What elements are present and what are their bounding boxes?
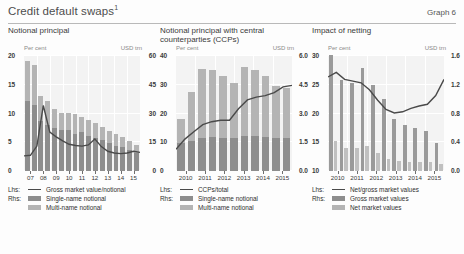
panel-title: Impact of netting [312,26,460,45]
x-axis-tick-label: 2015 [427,174,441,181]
x-axis: 070809101112131415 [24,171,140,182]
panel-legend: Lhs:Gross market value/notionalRhs:Singl… [8,185,156,212]
line-series-gross-market-value-notional [24,55,140,171]
legend-swatch-line [332,189,345,190]
x-axis-tick-label: 12 [91,174,98,181]
x-axis-tick-label: 2010 [179,174,193,181]
x-axis-tick-label: 2015 [275,174,289,181]
legend-axis-key: Lhs: [160,186,180,193]
panel-impact-of-netting: Impact of netting Per cent USD trn 10152… [312,26,460,252]
legend-swatch-light [28,205,41,210]
y-axis-tick-left: 10 [160,139,174,145]
y-axis-tick-right: 1.6 [445,53,460,59]
x-axis-tick-label: 2011 [198,174,211,181]
legend-label: Multi-name notional [198,204,254,211]
right-axis-unit: USD trn [273,45,294,51]
legend-row: Rhs:Single-name notional [8,194,156,203]
legend-label: Net/gross market values [350,186,419,193]
panel-axis-units: Per cent USD trn [160,45,308,55]
x-axis-tick-label: 11 [79,174,85,181]
x-axis-tick-label: 2011 [350,174,363,181]
legend-swatch-dark [28,196,41,201]
x-axis-tick-label: 08 [40,174,47,181]
line-path [176,85,292,149]
y-axis-tick-right: 6.0 [293,53,308,59]
right-axis-unit: USD trn [425,45,446,51]
y-axis-tick-left: 10 [312,168,326,174]
line-series-ccps-total [176,55,292,171]
y-axis-tick-left: 20 [160,111,174,117]
legend-row: Rhs:Gross market values [312,194,460,203]
legend-label: Net market values [350,204,402,211]
x-axis-tick-label: 2010 [331,174,345,181]
legend-axis-key: Lhs: [312,186,332,193]
legend-axis-key: Rhs: [312,195,332,202]
y-axis-tick-left: 25 [312,82,326,88]
legend-label: Single-name notional [198,195,258,202]
y-axis-tick-right: 1.5 [293,139,308,145]
legend-swatch-light [332,205,345,210]
panel-title: Notional principal [8,26,156,45]
y-axis-tick-right: 3.0 [293,111,308,117]
x-axis-tick-label: 07 [27,174,34,181]
y-axis-tick-right: 0.8 [445,111,460,117]
legend-row: Multi-name notional [8,203,156,212]
line-path [328,72,444,113]
title-footnote-marker: 1 [114,4,118,11]
graph-page: Credit default swaps1 Graph 6 Notional p… [0,0,464,254]
y-axis-tick-right: 4.5 [293,82,308,88]
y-axis-tick-right: 30 [141,111,156,117]
x-axis-tick-label: 2013 [389,174,403,181]
legend-row: Lhs:CCPs/total [160,185,308,194]
legend-axis-key: Rhs: [160,195,180,202]
legend-row: Multi-name notional [160,203,308,212]
legend-row: Rhs:Single-name notional [160,194,308,203]
legend-swatch-line [28,189,41,190]
y-axis-tick-left: 0 [8,168,22,174]
legend-label: Gross market value/notional [46,186,126,193]
x-axis: 201020112012201320142015 [176,171,292,182]
panel-notional-principal-ccp: Notional principal with central counterp… [160,26,308,252]
left-axis-unit: Per cent [328,45,350,51]
panel-axis-units: Per cent USD trn [8,45,156,55]
y-axis-tick-right: 0 [141,168,156,174]
panel-legend: Lhs:CCPs/totalRhs:Single-name notionalMu… [160,185,308,212]
y-axis-tick-right: 60 [141,53,156,59]
legend-swatch-dark [180,196,193,201]
y-axis-tick-left: 15 [312,139,326,145]
x-axis-tick-label: 2013 [237,174,251,181]
x-axis-tick-label: 2012 [369,174,383,181]
legend-label: Multi-name notional [46,204,102,211]
y-axis-tick-right: 0.4 [445,139,460,145]
legend-swatch-light [180,205,193,210]
y-axis-tick-left: 40 [160,53,174,59]
y-axis-tick-left: 20 [8,53,22,59]
y-axis-tick-left: 10 [8,111,22,117]
plot-area-wrapper: 010203040 0.01.53.04.56.0 20102011201220… [160,55,308,182]
y-axis-tick-right: 0.0 [293,168,308,174]
x-axis-tick-label: 14 [117,174,124,181]
y-axis-tick-left: 5 [8,139,22,145]
page-header: Credit default swaps1 Graph 6 [8,4,456,24]
y-axis-tick-left: 20 [312,111,326,117]
legend-row: Net market values [312,203,460,212]
y-axis-tick-right: 0.0 [445,168,460,174]
header-divider [8,23,456,24]
x-axis-tick-label: 2014 [408,174,422,181]
plot-area [176,55,292,171]
x-axis-tick-label: 13 [104,174,111,181]
legend-row: Lhs:Gross market value/notional [8,185,156,194]
line-series-net-gross-market-values [328,55,444,171]
legend-label: CCPs/total [198,186,229,193]
x-axis-tick-label: 15 [130,174,137,181]
legend-swatch-dark [332,196,345,201]
y-axis-tick-right: 15 [141,139,156,145]
y-axis-tick-left: 15 [8,82,22,88]
x-axis-tick-label: 2012 [217,174,231,181]
left-axis-unit: Per cent [176,45,198,51]
panels-container: Notional principal Per cent USD trn 0510… [8,26,460,252]
y-axis-tick-left: 0 [160,168,174,174]
plot-area-wrapper: 1015202530 0.00.40.81.21.6 2010201120122… [312,55,460,182]
y-axis-tick-right: 45 [141,82,156,88]
panel-title: Notional principal with central counterp… [160,26,308,45]
